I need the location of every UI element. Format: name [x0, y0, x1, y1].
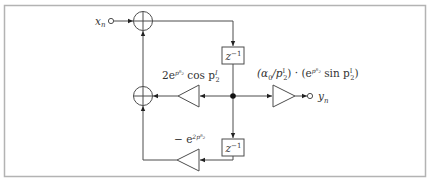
junction-node — [230, 93, 236, 99]
gain2-to-adder-wire — [143, 106, 177, 160]
output-terminal — [307, 93, 312, 98]
diagram-frame — [5, 6, 426, 177]
gain-feedback-2 — [177, 149, 199, 171]
delay-top: z−1 — [222, 47, 244, 64]
output-label: yn — [317, 90, 329, 105]
forward-wire — [152, 21, 233, 46]
gain-feedback-2-label: − e2pᴿ₂ — [174, 133, 206, 145]
delay2-to-gain2-wire — [200, 156, 233, 160]
gain-feedback-1-label: 2epᴿ₂ cos pI2 — [162, 69, 220, 84]
input-terminal — [108, 18, 113, 23]
gain-output — [273, 85, 295, 107]
adder-bottom — [134, 87, 153, 106]
gain-feedback-1 — [178, 85, 199, 107]
block-diagram: xn z−1 z−1 2epᴿ₂ cos pI2 (α0/pI2) · (epᴿ… — [0, 0, 431, 184]
delay-bottom: z−1 — [222, 139, 244, 156]
input-label: xn — [95, 15, 106, 30]
adder-top — [134, 12, 153, 31]
gain-output-label: (α0/pI2) · (epᴿ₂ sin pI2) — [257, 67, 359, 82]
